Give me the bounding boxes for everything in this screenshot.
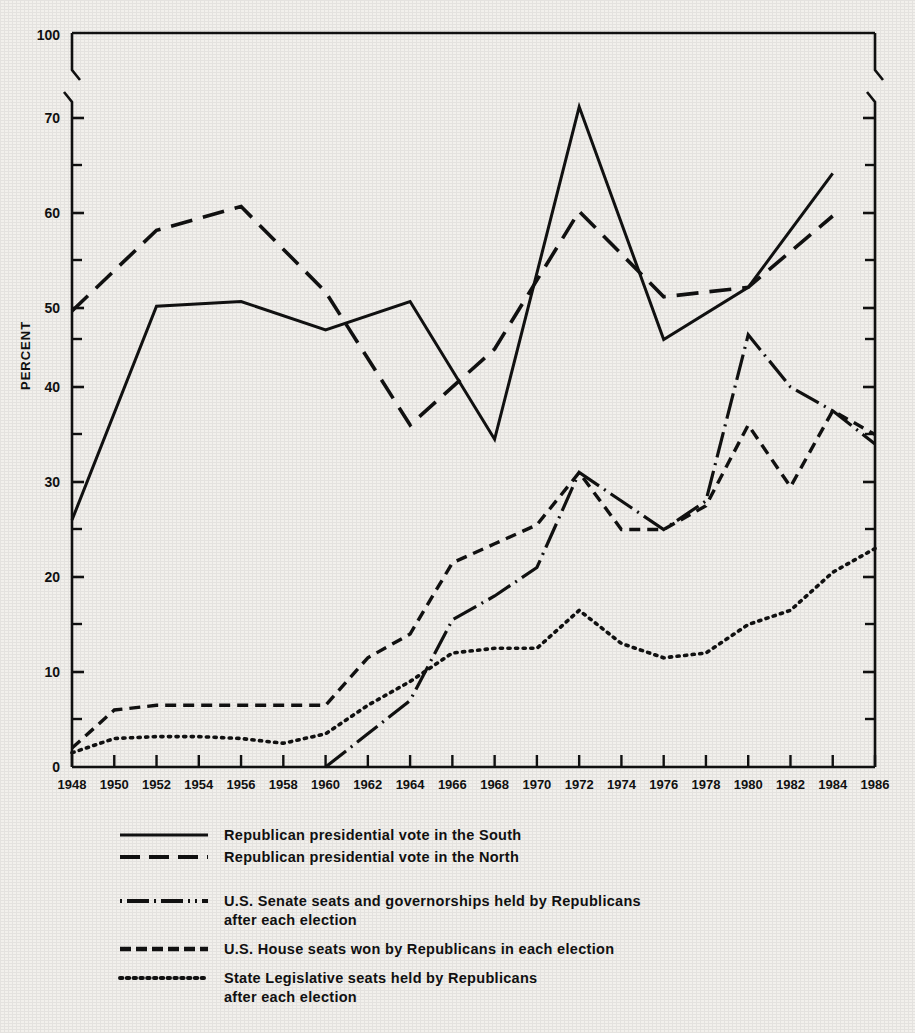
legend-item: Republican presidential vote in the Sout…	[118, 826, 908, 845]
x-tick-label: 1958	[261, 777, 305, 792]
dash-dot-line-icon	[118, 892, 210, 910]
y-tick-label: 100	[20, 27, 60, 43]
legend-item: U.S. House seats won by Republicans in e…	[118, 940, 908, 959]
x-tick-label: 1964	[388, 777, 432, 792]
x-tick-label: 1966	[430, 777, 474, 792]
y-tick-label: 30	[20, 474, 60, 490]
series-line-1	[72, 207, 833, 426]
chart-plot-area	[0, 0, 915, 800]
axis-break-left-upper	[72, 33, 80, 80]
x-tick-label: 1956	[219, 777, 263, 792]
chart-series-layer	[72, 107, 875, 767]
legend-item: Republican presidential vote in the Nort…	[118, 848, 908, 867]
y-minor-ticks	[72, 165, 875, 719]
x-tick-label: 1972	[557, 777, 601, 792]
x-ticks	[72, 755, 875, 767]
legend-label: U.S. House seats won by Republicans in e…	[224, 940, 614, 959]
axis-break-right-upper	[875, 33, 883, 80]
legend-label: Republican presidential vote in the Nort…	[224, 848, 519, 867]
axis-left-line	[64, 92, 72, 767]
dotted-line-icon	[118, 969, 210, 987]
x-tick-label: 1960	[304, 777, 348, 792]
short-dash-line-icon	[118, 940, 210, 958]
x-tick-label: 1968	[473, 777, 517, 792]
y-tick-label: 10	[20, 664, 60, 680]
y-tick-label: 70	[20, 110, 60, 126]
dashed-line-icon	[118, 848, 210, 866]
axis-right-line	[867, 92, 875, 767]
y-tick-label: 50	[20, 300, 60, 316]
y-tick-label: 20	[20, 569, 60, 585]
x-tick-label: 1954	[177, 777, 221, 792]
legend-label: Republican presidential vote in the Sout…	[224, 826, 522, 845]
x-tick-label: 1982	[768, 777, 812, 792]
x-tick-label: 1986	[853, 777, 897, 792]
chart-figure: PERCENT 100706050403020100 1948195019521…	[0, 0, 915, 1033]
legend-label: U.S. Senate seats and governorships held…	[224, 892, 641, 930]
solid-line-icon	[118, 826, 210, 844]
legend-gap	[118, 870, 908, 892]
x-tick-label: 1974	[599, 777, 643, 792]
series-line-0	[72, 107, 833, 520]
legend-gap	[118, 962, 908, 969]
series-line-2	[326, 335, 875, 767]
series-line-4	[72, 549, 875, 753]
y-tick-label: 60	[20, 205, 60, 221]
x-tick-label: 1962	[346, 777, 390, 792]
x-tick-label: 1950	[92, 777, 136, 792]
x-tick-label: 1984	[811, 777, 855, 792]
y-tick-label: 40	[20, 379, 60, 395]
y-tick-label: 0	[20, 759, 60, 775]
chart-axes	[64, 33, 883, 767]
legend-label: State Legislative seats held by Republic…	[224, 969, 537, 1007]
legend-gap	[118, 933, 908, 940]
legend-item: U.S. Senate seats and governorships held…	[118, 892, 908, 930]
chart-legend: Republican presidential vote in the Sout…	[118, 826, 908, 1010]
legend-item: State Legislative seats held by Republic…	[118, 969, 908, 1007]
x-tick-label: 1980	[726, 777, 770, 792]
x-tick-label: 1976	[642, 777, 686, 792]
x-tick-label: 1952	[135, 777, 179, 792]
series-line-3	[72, 411, 875, 748]
x-tick-label: 1948	[50, 777, 94, 792]
y-major-ticks	[72, 118, 875, 672]
x-tick-label: 1978	[684, 777, 728, 792]
x-tick-label: 1970	[515, 777, 559, 792]
